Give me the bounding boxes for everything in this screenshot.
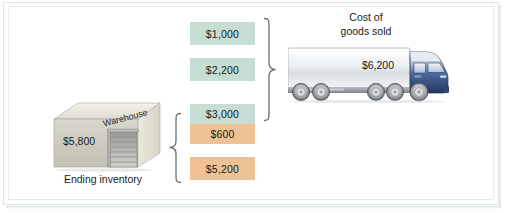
cogs-chip-2: $2,200	[190, 58, 255, 81]
ending-inventory-chip-2: $5,200	[190, 157, 255, 180]
delivery-truck-icon: $6,200	[288, 42, 473, 104]
cogs-chip-1: $1,000	[190, 22, 255, 45]
truck-amount-label: $6,200	[338, 59, 418, 71]
cogs-label-line-1: Cost of	[318, 10, 414, 24]
figure-frame-shadow-bottom	[6, 206, 501, 209]
left-curly-brace-icon	[168, 112, 182, 184]
cogs-chip-3: $3,000	[190, 104, 255, 124]
cost-of-goods-sold-label: Cost of goods sold	[318, 10, 414, 38]
warehouse-amount-label: $5,800	[63, 135, 95, 147]
ending-inventory-chip-1: $600	[190, 124, 255, 144]
truck-graphic	[288, 42, 473, 104]
figure-frame-shadow-right	[499, 5, 502, 208]
right-curly-brace-icon	[263, 17, 277, 122]
inventory-cost-diagram: $1,000 $2,200 $3,000 $600 $5,200 Cost of…	[0, 0, 505, 213]
cogs-label-line-2: goods sold	[318, 24, 414, 38]
ending-inventory-label: Ending inventory	[38, 172, 168, 186]
warehouse-building-icon: $5,800 Warehouse	[52, 101, 162, 173]
